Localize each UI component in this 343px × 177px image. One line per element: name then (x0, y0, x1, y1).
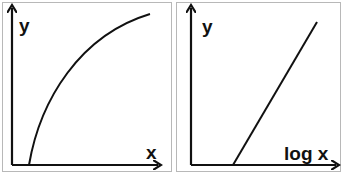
right-axes (191, 8, 336, 165)
left-y-label: y (19, 15, 30, 36)
right-x-label: log x (284, 143, 329, 164)
left-x-label: x (146, 142, 157, 163)
diagram-canvas: y x y log x (0, 0, 343, 177)
right-y-label: y (202, 16, 213, 37)
left-curve (29, 14, 150, 165)
